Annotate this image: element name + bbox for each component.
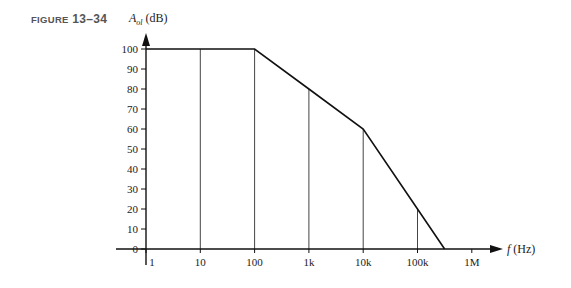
y-tick-label: 80 xyxy=(127,83,139,95)
y-tick-label: 90 xyxy=(127,63,139,75)
y-tick-label: 60 xyxy=(127,123,139,135)
y-tick-label: 20 xyxy=(127,203,139,215)
y-tick-label: 100 xyxy=(122,43,139,55)
y-tick-label: 70 xyxy=(127,103,139,115)
x-tick-label: 100k xyxy=(407,256,430,268)
x-tick-label: 1 xyxy=(149,256,155,268)
bode-plot: 01020304050607080901001101001k10k100k1MA… xyxy=(0,0,571,288)
y-tick-label: 10 xyxy=(127,223,139,235)
y-tick-label: 50 xyxy=(127,143,139,155)
x-tick-label: 10 xyxy=(195,256,207,268)
x-axis-arrow-icon xyxy=(490,245,503,253)
y-axis-label: Aol (dB) xyxy=(128,11,168,27)
y-tick-label: 0 xyxy=(133,243,139,255)
y-axis-arrow-icon xyxy=(142,33,150,46)
x-axis-label: f (Hz) xyxy=(507,242,535,256)
gain-curve xyxy=(146,49,445,249)
y-tick-label: 30 xyxy=(127,183,139,195)
x-tick-label: 1M xyxy=(464,256,480,268)
y-tick-label: 40 xyxy=(127,163,139,175)
x-tick-label: 100 xyxy=(246,256,263,268)
x-tick-label: 10k xyxy=(355,256,372,268)
x-tick-label: 1k xyxy=(303,256,315,268)
